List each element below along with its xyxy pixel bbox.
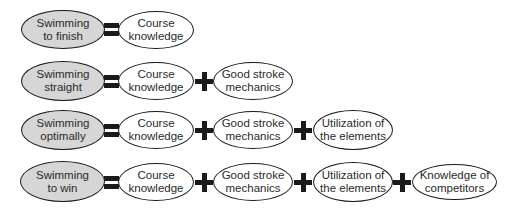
component-label: Course knowledge: [125, 17, 188, 43]
component-course-knowledge: Course knowledge: [118, 111, 194, 149]
plus-sign: [195, 72, 213, 91]
goal-swimming-optimally: Swimming optimally: [21, 110, 105, 150]
equals-sign: [104, 75, 119, 88]
component-label: Good stroke mechanics: [218, 169, 289, 195]
plus-sign: [393, 173, 411, 192]
equals-sign: [104, 124, 119, 137]
equals-sign: [104, 23, 119, 36]
goal-swimming-to-finish: Swimming to finish: [21, 10, 105, 49]
component-course-knowledge: Course knowledge: [118, 163, 194, 201]
plus-sign: [195, 173, 213, 192]
component-label: Course knowledge: [125, 169, 188, 195]
goal-swimming-to-win: Swimming to win: [20, 161, 105, 202]
component-knowledge-of-competitors: Knowledge of competitors: [412, 164, 497, 200]
component-utilization-of-elements: Utilization of the elements: [313, 162, 393, 202]
component-label: Utilization of the elements: [316, 117, 390, 143]
component-label: Knowledge of competitors: [416, 169, 494, 195]
component-label: Course knowledge: [125, 68, 188, 94]
equals-sign: [104, 176, 119, 189]
plus-sign: [195, 121, 213, 140]
component-utilization-of-elements: Utilization of the elements: [313, 110, 393, 150]
component-label: Good stroke mechanics: [218, 117, 289, 143]
component-label: Utilization of the elements: [316, 169, 390, 195]
component-good-stroke-mechanics: Good stroke mechanics: [213, 163, 293, 201]
component-label: Good stroke mechanics: [218, 68, 289, 94]
component-course-knowledge: Course knowledge: [118, 62, 194, 100]
component-label: Course knowledge: [125, 117, 188, 143]
plus-sign: [294, 121, 312, 140]
goal-swimming-straight: Swimming straight: [21, 61, 105, 101]
component-course-knowledge: Course knowledge: [118, 11, 194, 49]
goal-label: Swimming straight: [32, 68, 93, 94]
plus-sign: [294, 173, 312, 192]
goal-label: Swimming to finish: [32, 17, 93, 43]
component-good-stroke-mechanics: Good stroke mechanics: [213, 111, 293, 149]
swimming-success-diagram: Swimming to finish Course knowledge Swim…: [0, 0, 513, 212]
goal-label: Swimming to win: [32, 169, 93, 195]
goal-label: Swimming optimally: [32, 117, 93, 143]
component-good-stroke-mechanics: Good stroke mechanics: [213, 62, 293, 100]
